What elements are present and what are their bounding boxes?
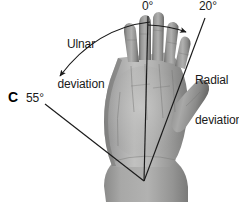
radial-deviation-label-line2: deviation bbox=[195, 114, 239, 127]
wrist-deviation-figure: 0° 20° 55° Ulnar deviation Radial deviat… bbox=[0, 0, 239, 202]
radial-angle-label: 20° bbox=[199, 0, 217, 13]
radial-deviation-label-line1: Radial bbox=[195, 74, 239, 87]
neutral-angle-label: 0° bbox=[142, 0, 153, 13]
ulnar-deviation-label: Ulnar deviation bbox=[50, 11, 112, 119]
ulnar-deviation-label-line2: deviation bbox=[50, 78, 112, 91]
hand-photograph bbox=[104, 12, 209, 202]
radial-deviation-label: Radial deviation bbox=[195, 47, 239, 155]
panel-letter: C bbox=[8, 90, 18, 106]
ulnar-angle-label: 55° bbox=[26, 92, 44, 105]
ulnar-deviation-label-line1: Ulnar bbox=[50, 38, 112, 51]
